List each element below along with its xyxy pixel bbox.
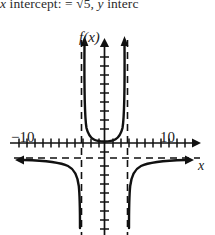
graph-canvas — [0, 14, 215, 235]
y-axis-label: f(x) — [79, 30, 100, 45]
problem-x-intercept-label: intercept: — [10, 0, 62, 11]
x-axis-arrow-right — [192, 138, 201, 147]
problem-x-intercept-value: = √5 — [65, 0, 91, 11]
curve-right-branch — [129, 155, 194, 228]
x-tick-label-positive-ten: 10 — [160, 130, 175, 145]
problem-y-intercept-label: interc — [107, 0, 138, 11]
curve-left-branch — [15, 155, 80, 228]
y-axis-arrow-up — [100, 38, 109, 47]
right-branch-arrow — [185, 155, 194, 164]
x-axis-label: x — [198, 159, 204, 173]
problem-x-variable: x — [0, 0, 6, 11]
problem-y-variable: y — [98, 0, 104, 11]
problem-separator: , — [91, 0, 94, 11]
y-axis — [100, 38, 109, 235]
function-graph-figure: f(x) x −10 10 — [0, 14, 215, 235]
x-tick-label-negative-ten: −10 — [11, 130, 34, 145]
left-branch-arrow — [15, 155, 24, 164]
problem-statement-text: x intercept: = √5, y interc — [0, 0, 215, 12]
